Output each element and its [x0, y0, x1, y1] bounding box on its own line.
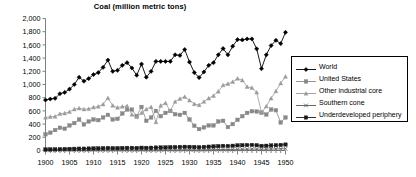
data-point: [63, 147, 66, 150]
data-point: [231, 122, 235, 126]
data-point: [58, 126, 62, 130]
y-axis-tick-label: 400: [29, 120, 41, 129]
data-point: [87, 147, 90, 150]
data-point: [121, 146, 124, 149]
data-point: [183, 95, 187, 99]
data-point: [245, 37, 249, 41]
legend-marker-icon: [295, 109, 317, 120]
legend-item-southern-cone[interactable]: Southern cone: [295, 96, 405, 108]
data-point: [44, 133, 48, 137]
data-point: [236, 77, 240, 81]
data-point: [217, 120, 221, 124]
x-axis-tick-label: 1925: [158, 158, 174, 167]
y-axis-tick-label: 1,400: [23, 54, 41, 63]
data-point: [159, 104, 163, 108]
data-point: [255, 47, 259, 51]
data-point: [279, 121, 283, 125]
y-axis-tick-label: 1,800: [23, 27, 41, 36]
y-axis-tick-label: 800: [29, 93, 41, 102]
data-point: [279, 143, 282, 146]
data-point: [178, 113, 182, 117]
data-point: [231, 144, 234, 147]
data-point: [265, 144, 268, 147]
y-axis-tick-label: 1,600: [23, 41, 41, 50]
data-point: [178, 145, 181, 148]
data-point: [226, 125, 230, 129]
data-point: [101, 146, 104, 149]
data-point: [139, 62, 143, 66]
data-point: [250, 109, 254, 113]
chart-legend: WorldUnited StatesOther industrial coreS…: [291, 56, 408, 122]
y-axis-tick-label: 1,200: [23, 67, 41, 76]
data-point: [202, 145, 205, 148]
data-point: [274, 89, 278, 93]
data-point: [164, 101, 168, 105]
data-point: [111, 146, 114, 149]
data-point: [241, 114, 245, 118]
data-point: [245, 111, 249, 115]
data-point: [135, 146, 138, 149]
data-point: [58, 147, 61, 150]
data-point: [221, 144, 224, 147]
data-point: [43, 98, 47, 102]
data-point: [97, 118, 101, 122]
data-point: [274, 108, 278, 112]
legend-item-other-industrial-core[interactable]: Other industrial core: [295, 84, 405, 96]
legend-item-world[interactable]: World: [295, 60, 405, 72]
data-point: [149, 116, 153, 120]
data-point: [236, 118, 240, 122]
chart-container: Coal (million metric tons) 0200400600800…: [0, 0, 416, 177]
data-point: [73, 121, 77, 125]
legend-item-underdeveloped-periphery[interactable]: Underdeveloped periphery: [295, 108, 405, 120]
data-point: [245, 143, 248, 146]
data-point: [82, 147, 85, 150]
data-point: [144, 107, 148, 111]
data-point: [269, 144, 272, 147]
x-axis-tick-label: 1935: [206, 158, 222, 167]
data-point: [240, 38, 244, 42]
y-axis-tick-label: 1,000: [23, 80, 41, 89]
data-point: [207, 96, 211, 100]
data-point: [49, 148, 52, 151]
data-point: [149, 146, 152, 149]
data-point: [77, 118, 81, 122]
data-point: [145, 146, 148, 149]
legend-item-label: Other industrial core: [317, 85, 382, 96]
data-point: [159, 59, 163, 63]
data-point: [264, 104, 268, 108]
data-point: [283, 30, 287, 34]
data-point: [130, 146, 133, 149]
data-point: [183, 111, 187, 115]
legend-item-united-states[interactable]: United States: [295, 72, 405, 84]
data-point: [183, 145, 186, 148]
data-point: [284, 116, 288, 120]
data-point: [173, 112, 177, 116]
data-point: [154, 109, 158, 113]
legend-marker-icon: [295, 73, 317, 84]
data-point: [145, 119, 149, 123]
x-axis-tick-label: 1945: [254, 158, 270, 167]
data-point: [77, 106, 81, 110]
data-point: [63, 127, 67, 131]
data-point: [92, 147, 95, 150]
data-point: [265, 113, 269, 117]
data-point: [226, 144, 229, 147]
data-point: [187, 60, 191, 64]
data-point: [193, 145, 196, 148]
data-point: [304, 79, 308, 83]
data-point: [304, 67, 308, 71]
data-point: [264, 53, 268, 57]
y-axis-tick-label: 2,000: [23, 14, 41, 23]
data-point: [92, 118, 96, 122]
data-point: [260, 144, 263, 147]
data-point: [111, 118, 115, 122]
x-axis-tick-label: 1915: [110, 158, 126, 167]
data-point: [207, 145, 210, 148]
data-point: [154, 59, 158, 63]
data-point: [111, 69, 115, 73]
data-point: [250, 143, 253, 146]
y-axis-tick-label: 200: [29, 133, 41, 142]
data-point: [212, 145, 215, 148]
data-point: [164, 146, 167, 149]
x-axis-tick-label: 1930: [182, 158, 198, 167]
